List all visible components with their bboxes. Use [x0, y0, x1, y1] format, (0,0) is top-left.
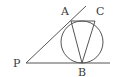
circle — [61, 21, 103, 63]
label-c: C — [96, 5, 104, 18]
chord-ab — [71, 21, 82, 63]
label-p: P — [13, 57, 21, 70]
diagram-svg: P A C B — [0, 0, 116, 77]
chord-cb — [82, 21, 95, 63]
label-b: B — [78, 66, 86, 77]
tangent-line-pa — [26, 6, 86, 63]
geometry-diagram: P A C B — [0, 0, 116, 77]
label-a: A — [60, 5, 70, 18]
